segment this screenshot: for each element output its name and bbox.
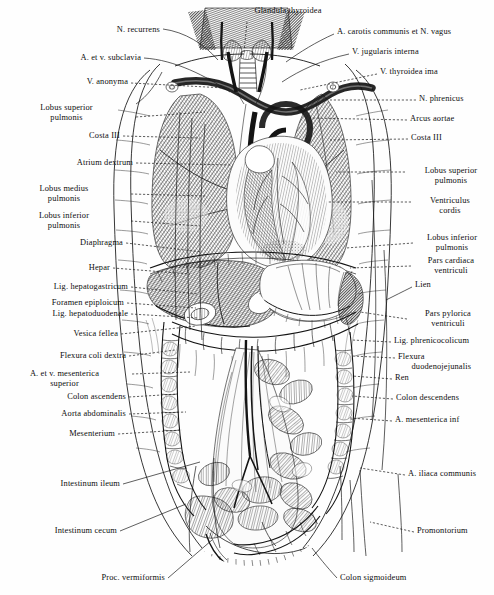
label-n-phrenicus: N. phrenicus — [419, 94, 494, 104]
label-a-iliaca-communis: A. iliaca communis — [408, 469, 494, 479]
label-arcus-aortae: Arcus aortae — [410, 114, 494, 124]
label-proc-vermiformis: Proc. vermiformis — [0, 573, 165, 583]
label-flexura-coli-dextra: Flexura coli dextra — [0, 351, 126, 361]
label-costa-iii-right: Costa III — [411, 133, 494, 143]
label-a-et-v-mesenterica-superior: A. et v. mesenterica superior — [0, 369, 129, 389]
ascending-colon — [161, 322, 206, 516]
label-mesenterium: Mesenterium — [0, 429, 115, 439]
label-lig-hepatoduodenale: Lig. hepatoduodenale — [0, 309, 128, 319]
label-v-anonyma: V. anonyma — [0, 77, 128, 87]
abdominal-viscera — [147, 260, 363, 575]
label-hepar: Hepar — [0, 263, 110, 273]
label-vesica-fellea: Vesica fellea — [0, 329, 118, 339]
label-foramen-epiploicum: Foramen epiploicum — [0, 298, 124, 308]
heart — [227, 136, 333, 268]
label-lig-hepatogastricum: Lig. hepatogastricum — [0, 282, 128, 292]
lung-right — [152, 94, 238, 270]
label-colon-descendens: Colon descendens — [396, 393, 494, 403]
label-promontorium: Promontorium — [417, 526, 494, 536]
label-lobus-inferior-pulmonis-left: Lobus inferior pulmonis — [0, 211, 128, 231]
label-aorta-abdominalis: Aorta abdominalis — [0, 409, 126, 419]
label-pars-cardiaca-ventriculi: Pars cardiaca ventriculi — [410, 256, 492, 276]
label-atrium-dextrum: Atrium dextrum — [0, 158, 133, 168]
label-lobus-medius-pulmonis: Lobus medius pulmonis — [0, 184, 128, 204]
label-lien: Lien — [415, 280, 475, 290]
label-colon-sigmoideum: Colon sigmoideum — [340, 573, 460, 583]
label-ventriculus-cordis: Ventriculus cordis — [410, 196, 490, 216]
label-intestinum-ileum: Intestinum ileum — [0, 479, 120, 489]
label-costa-iii-left: Costa III — [0, 131, 120, 141]
label-lobus-superior-pulmonis-right: Lobus superior pulmonis — [408, 166, 494, 186]
label-flexura-duodenojejunalis: Flexura duodenojejunalis — [398, 352, 494, 372]
label-v-jugularis-interna: V. jugularis interna — [352, 47, 494, 57]
label-diaphragma: Diaphragma — [0, 238, 123, 248]
label-lobus-superior-pulmonis-left: Lobus superior pulmonis — [0, 103, 133, 123]
label-intestinum-cecum: Intestinum cecum — [0, 526, 117, 536]
label-a-mesenterica-inf: A. mesenterica inf — [395, 415, 494, 425]
label-lig-phrenicocolicum: Lig. phrenicocolicum — [394, 336, 494, 346]
label-glandula-thyroidea: Glandula thyroidea — [218, 6, 358, 16]
descending-colon — [312, 332, 354, 514]
label-a-carotis-communis: A. carotis communis et N. vagus — [337, 27, 494, 37]
label-lobus-inferior-pulmonis-right: Lobus inferior pulmonis — [410, 233, 494, 253]
label-ren: Ren — [395, 373, 455, 383]
label-colon-ascendens: Colon ascendens — [0, 392, 126, 402]
label-n-recurrens: N. recurrens — [0, 25, 160, 35]
label-pars-pylorica-ventriculi: Pars pylorica ventriculi — [406, 309, 490, 329]
anatomical-plate: Glandula thyroidea N. recurrens A. et v.… — [0, 0, 494, 595]
label-a-et-v-subclavia: A. et v. subclavia — [0, 53, 141, 63]
label-v-thyroidea-ima: V. thyroidea ima — [380, 67, 494, 77]
trachea — [239, 58, 257, 92]
